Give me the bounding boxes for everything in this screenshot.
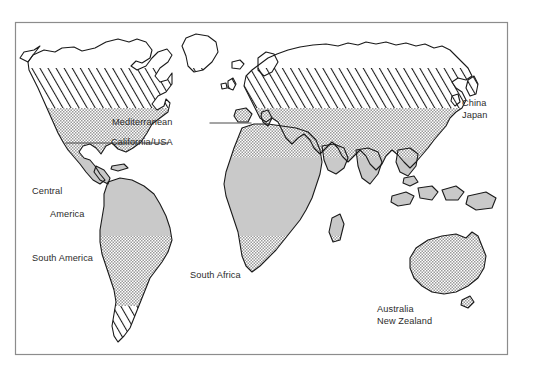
label-new-zealand: New Zealand [377, 316, 432, 328]
label-south-america: South America [32, 253, 93, 265]
label-mediterranean: Mediterranean [112, 117, 173, 129]
label-central-america-line2: America [50, 209, 84, 219]
label-china: China [462, 98, 487, 110]
label-australia: Australia [377, 304, 414, 316]
figure-canvas: Mediterranean California/USA China Japan… [0, 0, 534, 374]
label-central-america-line1: Central [32, 186, 62, 196]
label-central-america: Central America [32, 186, 84, 221]
label-south-africa: South Africa [190, 270, 241, 282]
label-japan: Japan [462, 110, 488, 122]
label-california-usa: California/USA [111, 137, 173, 149]
